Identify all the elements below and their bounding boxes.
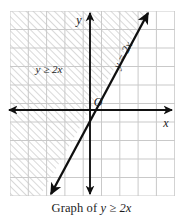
region-inequality-label: y ≥ 2x [35,63,63,75]
figure-caption: Graph of y ≥ 2x [0,201,183,216]
caption-expression: y ≥ 2x [100,201,131,215]
coordinate-graph: y x O y ≥ 2x y = 2x [0,0,183,202]
x-axis-label: x [162,116,169,130]
inequality-graph-figure: y x O y ≥ 2x y = 2x Graph of y ≥ 2x [0,0,183,222]
origin-label: O [94,95,103,109]
caption-prefix: Graph of [52,201,101,215]
y-axis-label: y [75,13,82,27]
